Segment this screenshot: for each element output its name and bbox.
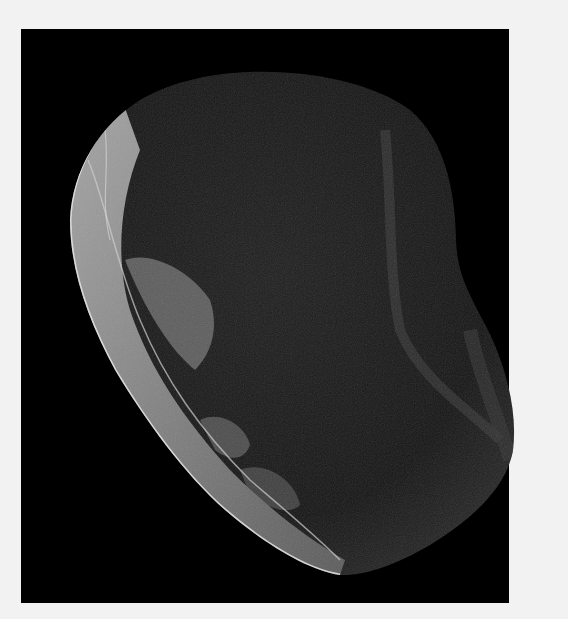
artifact-image: [0, 0, 568, 619]
